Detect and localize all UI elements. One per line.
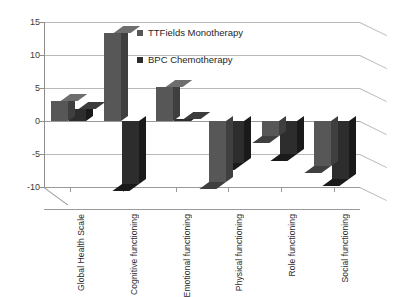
- bar-side: [244, 116, 251, 163]
- bar-face: [174, 119, 191, 121]
- bar-ttfields-1: [51, 101, 68, 121]
- bar-side: [226, 116, 233, 182]
- category-label-6: Social functioning: [340, 214, 350, 282]
- gridline-5: [44, 88, 360, 89]
- category-label-1: Global Health Scale: [76, 214, 86, 291]
- chart-floor: [44, 187, 360, 209]
- bar-side: [121, 28, 128, 121]
- category-label-5: Role functioning: [287, 214, 297, 277]
- bar-side: [173, 82, 180, 121]
- depth-edge-15: [360, 22, 387, 36]
- depth-edge--10: [360, 187, 387, 201]
- legend-label-2: BPC Chemotherapy: [148, 54, 232, 65]
- category-label-3: Emotional functioning: [182, 214, 192, 297]
- y-tick-label--5: -5: [32, 149, 40, 159]
- bar-side: [331, 116, 338, 166]
- bar-ttfields-3: [156, 87, 173, 121]
- y-tick-label-5: 5: [35, 83, 40, 93]
- depth-edge-0: [360, 121, 387, 135]
- depth-edge-5: [360, 88, 387, 102]
- gridline-0: [44, 121, 360, 122]
- bar-ttfields-6: [314, 121, 331, 166]
- bar-face: [156, 87, 173, 121]
- legend-item-2: BPC Chemotherapy: [137, 54, 232, 65]
- bar-face: [262, 121, 279, 136]
- bar-ttfields-5: [262, 121, 279, 136]
- bar-face: [314, 121, 331, 166]
- category-label-4: Physical functioning: [234, 214, 244, 291]
- legend-swatch-1: [137, 30, 143, 36]
- gridline-15: [44, 22, 360, 23]
- category-tick-1: [70, 188, 71, 192]
- y-tick--5: [40, 154, 45, 155]
- category-tick-6: [334, 188, 335, 192]
- bar-bpc-3: [174, 119, 191, 121]
- bar-ttfields-2: [104, 33, 121, 121]
- y-tick-5: [40, 88, 45, 89]
- floor-left-edge: [43, 187, 68, 205]
- bar-bpc-2: [122, 121, 139, 184]
- bar-face: [104, 33, 121, 121]
- gridline--5: [44, 154, 360, 155]
- y-axis: 151050-5-10: [44, 22, 45, 187]
- y-tick-0: [40, 121, 45, 122]
- category-tick-4: [228, 188, 229, 192]
- y-tick-label-10: 10: [30, 50, 40, 60]
- y-tick-15: [40, 22, 45, 23]
- floor-front-edge: [44, 209, 360, 210]
- category-label-2: Cognitive functioning: [129, 214, 139, 295]
- bar-face: [51, 101, 68, 121]
- bar-ttfields-4: [209, 121, 226, 182]
- legend-swatch-2: [137, 57, 143, 63]
- bar-side: [297, 116, 304, 154]
- y-tick-10: [40, 55, 45, 56]
- y-tick-label-15: 15: [30, 17, 40, 27]
- category-tick-5: [281, 188, 282, 192]
- depth-edge-10: [360, 55, 387, 69]
- bar-side: [349, 116, 356, 179]
- y-tick-label--10: -10: [27, 182, 40, 192]
- bar-side: [139, 116, 146, 184]
- bar-face: [209, 121, 226, 182]
- depth-edge--5: [360, 154, 387, 168]
- legend-item-1: TTFields Monotherapy: [137, 27, 243, 38]
- category-tick-3: [176, 188, 177, 192]
- bar-face: [122, 121, 139, 184]
- y-tick-label-0: 0: [35, 116, 40, 126]
- legend-label-1: TTFields Monotherapy: [148, 27, 243, 38]
